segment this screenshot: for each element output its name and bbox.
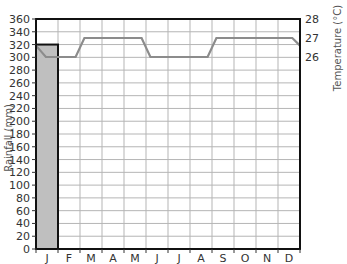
svg-text:300: 300 xyxy=(9,51,30,64)
svg-text:20: 20 xyxy=(16,230,30,243)
svg-text:J: J xyxy=(154,252,158,264)
svg-text:80: 80 xyxy=(16,192,30,205)
svg-text:A: A xyxy=(109,252,117,264)
svg-text:26: 26 xyxy=(305,51,319,64)
svg-text:100: 100 xyxy=(9,179,30,192)
svg-text:340: 340 xyxy=(9,26,30,39)
svg-text:N: N xyxy=(263,252,271,264)
svg-text:D: D xyxy=(285,252,293,264)
svg-text:320: 320 xyxy=(9,39,30,52)
svg-text:240: 240 xyxy=(9,90,30,103)
svg-text:360: 360 xyxy=(9,13,30,26)
svg-text:J: J xyxy=(44,252,48,264)
svg-text:A: A xyxy=(197,252,205,264)
svg-text:F: F xyxy=(66,252,72,264)
temperature-axis-ticks: 262728 xyxy=(305,13,319,64)
svg-text:O: O xyxy=(241,252,250,264)
svg-text:J: J xyxy=(176,252,180,264)
svg-text:S: S xyxy=(220,252,227,264)
svg-text:60: 60 xyxy=(16,205,30,218)
climate-chart: 0204060801001201401601802002202402602803… xyxy=(0,0,347,264)
svg-text:0: 0 xyxy=(23,243,30,256)
svg-text:27: 27 xyxy=(305,32,319,45)
temperature-axis-title: Temperature (°C) xyxy=(332,5,343,92)
rainfall-axis-title: Rainfall (mm) xyxy=(3,104,14,172)
svg-text:40: 40 xyxy=(16,217,30,230)
rainfall-bars xyxy=(36,45,58,249)
svg-text:28: 28 xyxy=(305,13,319,26)
svg-text:M: M xyxy=(130,252,140,264)
grid xyxy=(36,19,300,249)
svg-text:280: 280 xyxy=(9,64,30,77)
svg-text:260: 260 xyxy=(9,77,30,90)
rainfall-bar xyxy=(36,45,58,249)
month-axis-ticks: JFMAMJJASOND xyxy=(36,249,300,264)
svg-text:M: M xyxy=(86,252,96,264)
